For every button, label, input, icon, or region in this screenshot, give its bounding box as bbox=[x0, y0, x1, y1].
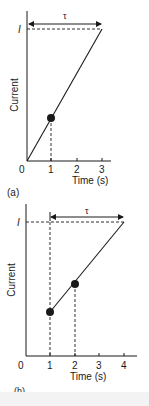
x-axis-label-a: Time (s) bbox=[72, 175, 108, 186]
chart-a: τ I Current 0 1 2 3 Time (s) (a) bbox=[7, 11, 111, 198]
tau-label-b: τ bbox=[85, 206, 89, 216]
x-axis-label-b: Time (s) bbox=[70, 371, 106, 382]
tau-label-a: τ bbox=[63, 11, 67, 21]
caption-strip bbox=[0, 392, 149, 406]
panel-label-a: (a) bbox=[7, 187, 19, 198]
chart-b: τ I Current 0 1 2 3 4 Time (s) (h) bbox=[6, 204, 137, 396]
svg-text:1: 1 bbox=[47, 360, 53, 371]
data-point-b-1 bbox=[46, 308, 54, 316]
y-axis-label-b: Current bbox=[6, 263, 17, 297]
i-label-a: I bbox=[18, 24, 21, 35]
svg-text:2: 2 bbox=[74, 164, 80, 175]
svg-text:3: 3 bbox=[99, 164, 105, 175]
svg-text:4: 4 bbox=[121, 360, 127, 371]
svg-text:3: 3 bbox=[96, 360, 102, 371]
svg-text:1: 1 bbox=[48, 164, 54, 175]
svg-text:0: 0 bbox=[18, 360, 24, 371]
svg-text:2: 2 bbox=[72, 360, 78, 371]
data-point-b-2 bbox=[71, 280, 79, 288]
data-point-a bbox=[47, 114, 55, 122]
current-line-b bbox=[50, 222, 124, 312]
i-label-b: I bbox=[17, 217, 20, 228]
current-line-a bbox=[27, 29, 102, 161]
y-axis-label-a: Current bbox=[9, 78, 20, 112]
figure: τ I Current 0 1 2 3 Time (s) (a) τ I Cur… bbox=[0, 0, 149, 406]
svg-text:0: 0 bbox=[19, 164, 25, 175]
